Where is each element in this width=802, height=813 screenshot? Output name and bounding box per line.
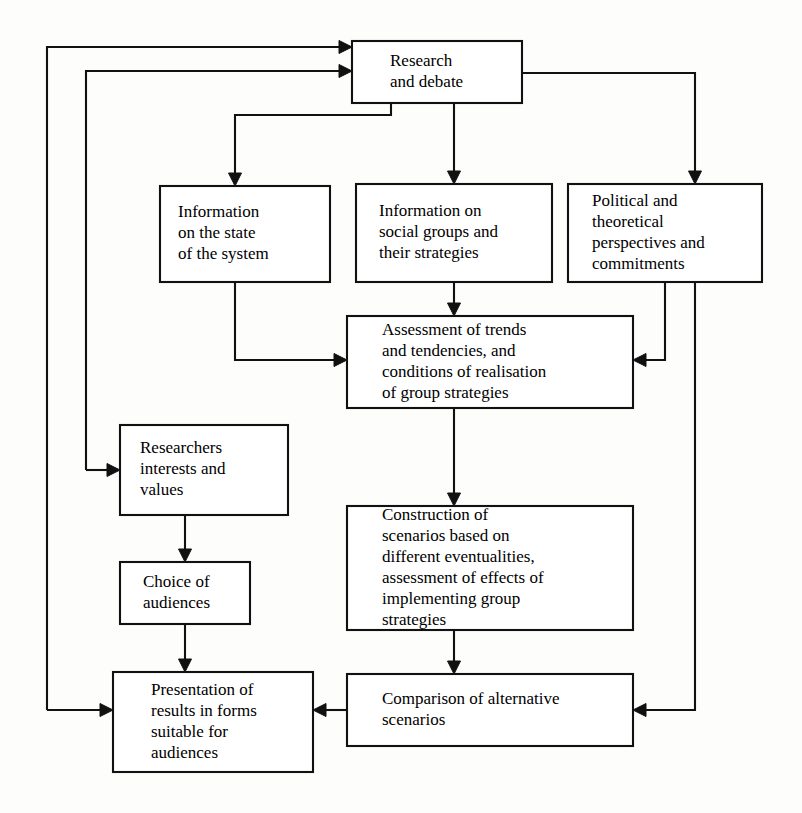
- edge-political-to-assessment-line: [641, 282, 665, 360]
- edge-political-to-assessment-arrowhead-icon: [633, 354, 646, 367]
- node-choice-of-audiences[interactable]: Choice ofaudiences: [120, 562, 250, 624]
- edge-construction-to-comparison-arrowhead-icon: [448, 661, 461, 674]
- edge-research-to-political-line: [522, 73, 695, 176]
- edge-political-to-assessment: [633, 282, 665, 367]
- edge-info-state-to-assessment-line: [235, 282, 339, 360]
- node-presentation-of-results[interactable]: Presentation ofresults in formssuitable …: [113, 672, 313, 772]
- node-information-on-state-of-system[interactable]: Informationon the stateof the system: [160, 186, 330, 282]
- edge-research-to-info-state: [229, 103, 392, 186]
- flowchart-svg: Researchand debateInformationon the stat…: [0, 0, 802, 813]
- edge-info-state-to-assessment-arrowhead-icon: [334, 354, 347, 367]
- edge-research-to-info-groups-arrowhead-icon: [448, 171, 461, 184]
- edge-feedback-researchers-to-research-arrowhead-icon: [339, 65, 352, 78]
- edge-info-state-to-assessment: [235, 282, 347, 367]
- node-research-and-debate[interactable]: Researchand debate: [352, 41, 522, 103]
- node-political-theoretical-perspectives[interactable]: Political andtheoreticalperspectives and…: [568, 184, 762, 282]
- node-layer: Researchand debateInformationon the stat…: [113, 41, 762, 772]
- node-researchers-interests-and-values[interactable]: Researchersinterests andvalues: [120, 425, 288, 515]
- node-comparison-of-alternative-scenarios[interactable]: Comparison of alternativescenarios: [347, 674, 633, 746]
- edge-political-to-comparison-arrowhead-icon: [633, 704, 646, 717]
- edge-choice-to-presentation-arrowhead-icon: [179, 659, 192, 672]
- edge-research-to-info-state-arrowhead-icon: [229, 173, 242, 186]
- edge-choice-to-presentation: [179, 624, 192, 672]
- edge-feedback-researchers-inlet-arrowhead-icon: [107, 464, 120, 477]
- edge-comparison-to-presentation: [313, 704, 347, 717]
- edge-feedback-researchers-inlet: [86, 464, 120, 477]
- edge-feedback-presentation-inlet-arrowhead-icon: [100, 704, 113, 717]
- edge-assessment-to-construction: [448, 408, 461, 506]
- node-assessment-of-trends[interactable]: Assessment of trendsand tendencies, andc…: [347, 316, 633, 408]
- edge-political-to-comparison-line: [641, 282, 695, 710]
- edge-research-to-info-groups: [448, 103, 461, 184]
- edge-feedback-presentation-to-research-arrowhead-icon: [339, 41, 352, 54]
- edge-info-groups-to-assessment: [448, 282, 461, 316]
- edge-comparison-to-presentation-arrowhead-icon: [313, 704, 326, 717]
- edge-researchers-to-choice-arrowhead-icon: [179, 549, 192, 562]
- node-construction-of-scenarios[interactable]: Construction ofscenarios based ondiffere…: [347, 504, 633, 630]
- edge-research-to-political-arrowhead-icon: [689, 171, 702, 184]
- node-information-on-social-groups[interactable]: Information onsocial groups andtheir str…: [356, 184, 552, 282]
- edge-researchers-to-choice: [179, 515, 192, 562]
- flowchart-canvas: Researchand debateInformationon the stat…: [0, 0, 802, 813]
- information-on-state-of-system-label: Informationon the stateof the system: [178, 202, 269, 263]
- edge-construction-to-comparison: [448, 630, 461, 674]
- edge-research-to-info-state-line: [235, 103, 391, 178]
- edge-feedback-presentation-inlet: [47, 704, 113, 717]
- edge-info-groups-to-assessment-arrowhead-icon: [448, 303, 461, 316]
- edge-research-to-political: [522, 73, 702, 184]
